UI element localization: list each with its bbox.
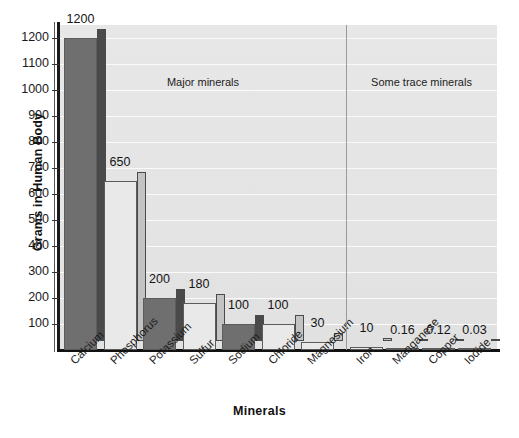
- section-caption: Major minerals: [123, 76, 283, 88]
- y-axis-tick: [52, 168, 59, 169]
- y-axis-tick: [52, 90, 59, 91]
- y-axis-tick: [52, 220, 59, 221]
- y-axis-tick-label: 500: [3, 212, 49, 226]
- y-axis-tick: [52, 324, 59, 325]
- y-axis-tick-label: 1200: [3, 30, 49, 44]
- y-axis-tick: [52, 246, 59, 247]
- y-axis-tick-label: 600: [3, 186, 49, 200]
- y-axis-line: [57, 22, 60, 352]
- gridline: [60, 64, 497, 65]
- y-axis-tick: [52, 272, 59, 273]
- y-axis-tick-label: 900: [3, 108, 49, 122]
- bar-value-label: 650: [94, 155, 147, 169]
- y-axis-tick-label: 400: [3, 238, 49, 252]
- section-caption: Some trace minerals: [342, 76, 502, 88]
- bar-side-face: [383, 338, 392, 341]
- bar-front-face: [104, 181, 137, 350]
- y-axis-tick: [52, 298, 59, 299]
- bar-value-label: 1200: [54, 12, 107, 26]
- bar-value-label: 100: [252, 298, 305, 312]
- y-axis-tick-label: 1100: [3, 56, 49, 70]
- y-axis-tick-label: 800: [3, 134, 49, 148]
- gridline: [60, 116, 497, 117]
- bar-value-label: 180: [173, 277, 226, 291]
- y-axis-tick-label: 1000: [3, 82, 49, 96]
- gridline: [60, 38, 497, 39]
- y-axis-tick: [52, 142, 59, 143]
- mineral-bar-chart: Grams in Human Body 12001100100090080070…: [0, 0, 519, 438]
- y-axis-tick: [52, 116, 59, 117]
- y-axis-tick: [52, 64, 59, 65]
- y-axis-tick: [52, 194, 59, 195]
- bar: [104, 181, 137, 350]
- y-axis-tick-label: 200: [3, 290, 49, 304]
- group-divider: [346, 25, 347, 350]
- y-axis-tick: [52, 38, 59, 39]
- bar-side-face: [491, 339, 500, 341]
- y-axis-tick-label: 100: [3, 316, 49, 330]
- gridline: [60, 142, 497, 143]
- y-axis-tick-label: 700: [3, 160, 49, 174]
- x-axis-title: Minerals: [0, 404, 519, 418]
- gridline: [60, 90, 497, 91]
- bar: [64, 38, 97, 350]
- y-axis-tick-label: 300: [3, 264, 49, 278]
- bar-front-face: [64, 38, 97, 350]
